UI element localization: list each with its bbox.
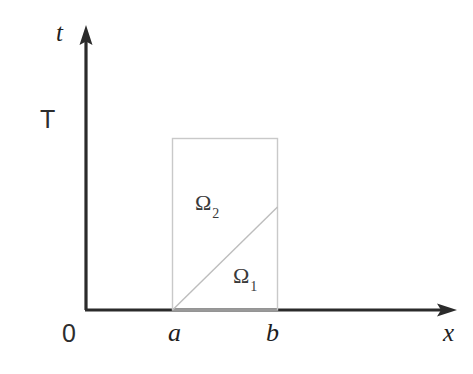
omega-1-subscript: 1 <box>250 279 257 294</box>
region-label-omega-1: Ω1 <box>233 265 256 291</box>
figure-canvas: t T Ω2 Ω1 0 a b x <box>0 0 473 374</box>
omega-2-subscript: 2 <box>212 206 219 221</box>
vertical-axis <box>80 25 93 310</box>
x-axis-tick-label-b: b <box>266 320 279 346</box>
x-axis-tick-label-a: a <box>168 320 181 346</box>
region-label-omega-2: Ω2 <box>195 192 218 218</box>
origin-label: 0 <box>62 321 76 346</box>
vertical-axis-label: t <box>56 20 63 45</box>
t-axis-tick-label-T: T <box>40 107 55 132</box>
horizontal-axis-label: x <box>443 320 454 345</box>
omega-2-base: Ω <box>195 190 211 215</box>
characteristic-diagonal <box>173 207 278 310</box>
omega-1-base: Ω <box>233 263 249 288</box>
diagram-svg <box>0 0 473 374</box>
domain-rectangle <box>173 139 278 311</box>
